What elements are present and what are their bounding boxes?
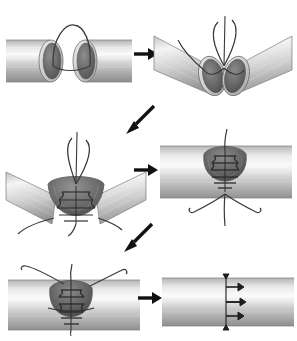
tube-left-angled bbox=[6, 172, 56, 224]
panel-5-anterior-closure bbox=[4, 256, 144, 336]
anastomosis-figure bbox=[0, 0, 297, 341]
arrow-right-icon bbox=[138, 292, 162, 304]
arrow-down-left-icon bbox=[124, 224, 152, 252]
panel-4-back-wall-closed bbox=[156, 128, 296, 228]
lumen-left bbox=[39, 40, 63, 82]
arrow-panel4-to-panel5 bbox=[120, 220, 158, 256]
panel-1-two-open-ends bbox=[4, 22, 134, 98]
arrow-right-icon bbox=[134, 164, 158, 176]
panel-2-ends-approximated bbox=[152, 14, 294, 108]
panel-6-completed-anastomosis bbox=[160, 268, 296, 334]
lumen-right bbox=[73, 40, 97, 82]
